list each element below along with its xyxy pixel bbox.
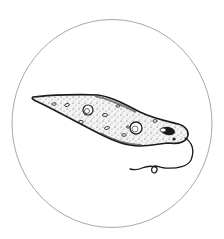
illustration-canvas bbox=[0, 0, 224, 239]
euglena-illustration bbox=[0, 0, 224, 239]
euglena-icon bbox=[32, 95, 193, 173]
